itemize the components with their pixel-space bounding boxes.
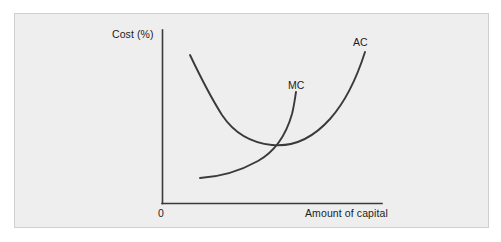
x-axis-label: Amount of capital bbox=[305, 207, 388, 219]
ac-curve-label: AC bbox=[353, 36, 368, 48]
y-axis-label: Cost (%) bbox=[112, 28, 154, 40]
mc-curve-label: MC bbox=[288, 79, 305, 91]
cost-curves-plot bbox=[0, 0, 501, 242]
origin-label: 0 bbox=[158, 207, 164, 219]
mc-curve bbox=[200, 92, 296, 178]
ac-curve bbox=[190, 52, 365, 145]
figure-root: Cost (%) Amount of capital 0 MC AC bbox=[0, 0, 501, 242]
